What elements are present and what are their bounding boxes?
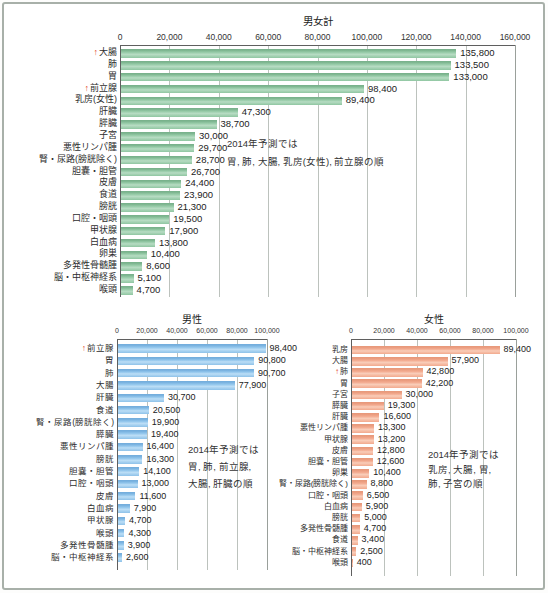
bar-row: 白血病5,900 [0,501,548,512]
category-label: 多発性骨髄腫 [246,523,348,534]
bar-row: 胃42,200 [0,378,548,389]
value-label: 8,800 [371,478,394,489]
chart-female-title: 女性 [374,311,494,326]
value-label: 89,400 [504,344,532,355]
bar [352,346,500,355]
category-label: 卵巣 [246,467,348,478]
category-label: 腎・尿路(膀胱除く) [246,478,348,489]
bar [352,480,367,489]
value-label: 2,500 [360,546,383,557]
x-axis-line [351,339,516,340]
bar [352,357,448,366]
value-label: 19,300 [388,400,416,411]
bar [352,536,358,545]
annotation-line: 2014年予測では [428,447,499,461]
category-label: 悪性リンパ腫 [246,422,348,433]
value-label: 3,400 [362,534,385,545]
value-label: 42,200 [426,378,454,389]
bar [352,503,362,512]
bar-row: 肝臓16,600 [0,411,548,422]
category-label: 甲状腺 [246,434,348,445]
bar-row: 悪性リンパ腫13,300 [0,422,548,433]
value-label: 13,300 [378,422,406,433]
value-label: 12,800 [377,445,405,456]
value-label: 12,600 [377,456,405,467]
category-label: ↑肺 [246,366,348,377]
category-label: 胃 [246,378,348,389]
bar-row: 脳・中枢神経系2,500 [0,546,548,557]
bar [352,447,373,456]
category-label: 膵臓 [246,400,348,411]
bar [352,402,384,411]
bar [352,458,373,467]
bar [352,391,402,400]
category-label: 子宮 [246,389,348,400]
bar-row: 膵臓19,300 [0,400,548,411]
annotation-line: 肺, 子宮の順 [428,476,483,490]
bar-row: 多発性骨髄腫4,700 [0,523,548,534]
bar-row: 食道3,400 [0,534,548,545]
bar [352,559,353,568]
bar-row: 喉頭400 [0,557,548,568]
value-label: 30,000 [406,389,434,400]
bar [352,435,374,444]
value-label: 16,600 [383,411,411,422]
bar-row: ↑肺42,800 [0,366,548,377]
bar [352,469,369,478]
annotation-line: 乳房, 大腸, 胃, [428,462,491,476]
category-label: 乳房 [246,344,348,355]
bar-row: 膀胱5,000 [0,512,548,523]
category-label: 膀胱 [246,512,348,523]
category-label: 大腸 [246,355,348,366]
bar [352,413,379,422]
category-label: 肝臓 [246,411,348,422]
bar-row: 大腸57,900 [0,355,548,366]
axis-tick-label: 100,000 [488,327,544,334]
bar [352,525,360,534]
category-label: 喉頭 [246,557,348,568]
category-label: 食道 [246,534,348,545]
cancer-incidence-figure: 男女計 020,00040,00060,00080,000100,000120,… [0,0,548,593]
chart-female: 女性 020,00040,00060,00080,000100,000乳房89,… [0,0,548,593]
bar-row: 乳房89,400 [0,344,548,355]
value-label: 13,200 [378,434,406,445]
bar [352,424,374,433]
category-label: 白血病 [246,501,348,512]
value-label: 6,500 [367,490,390,501]
bar [352,379,422,388]
bar-row: 口腔・咽頭6,500 [0,490,548,501]
bar-row: 甲状腺13,200 [0,434,548,445]
category-label: 脳・中枢神経系 [246,546,348,557]
value-label: 400 [357,557,372,568]
bar-row: 子宮30,000 [0,389,548,400]
value-label: 42,800 [427,366,455,377]
increase-arrow-icon: ↑ [335,367,339,376]
value-label: 10,400 [373,467,401,478]
value-label: 5,000 [364,512,387,523]
bar [352,491,363,500]
value-label: 5,900 [366,501,389,512]
bar [352,514,360,523]
bar [352,368,423,377]
category-label: 皮膚 [246,445,348,456]
value-label: 57,900 [452,355,480,366]
bar [352,547,356,556]
category-label: 口腔・咽頭 [246,490,348,501]
value-label: 4,700 [364,523,387,534]
category-label: 胆嚢・胆管 [246,456,348,467]
